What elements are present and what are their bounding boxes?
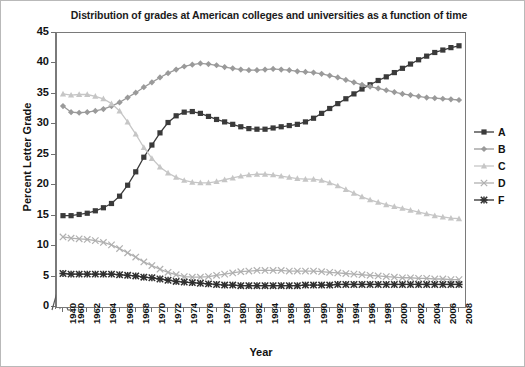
data-point-star [189,279,196,286]
data-point-star [334,281,341,288]
data-point-star [221,282,228,289]
x-tick-mark [458,308,459,312]
data-point-diamond [205,61,211,67]
data-point-diamond [415,93,421,99]
data-point-star [213,281,220,288]
data-point-square [351,91,356,96]
legend-item-C[interactable]: C [473,157,523,174]
legend-item-F[interactable]: F [473,191,523,208]
data-point-diamond [456,97,462,103]
data-point-star [229,282,236,289]
data-point-star [342,281,349,288]
data-point-diamond [383,87,389,93]
data-point-square [271,125,276,130]
series-line-D [63,237,459,280]
x-tick-label: 2006 [447,312,458,324]
data-point-diamond [399,91,405,97]
x-tick-mark [86,308,87,312]
data-point-star [197,280,204,287]
data-point-square [440,47,445,52]
data-point-square [335,101,340,106]
data-point-diamond [310,69,316,75]
x-tick-mark [410,308,411,312]
data-point-square [174,113,179,118]
series-line-B [63,63,459,112]
x-tick-label: 1970 [156,312,167,324]
data-point-star [302,282,309,289]
x-tick-mark [361,308,362,312]
data-point-star [59,270,66,277]
y-tick-label: 35 [23,86,49,98]
x-tick-label: 1990 [318,312,329,324]
y-tick-label: 10 [23,238,49,250]
data-point-diamond [432,95,438,101]
data-point-triangle [173,174,179,180]
x-tick-mark [450,308,451,312]
x-axis-label: Year [201,346,321,358]
data-point-star [261,282,268,289]
data-point-square [214,117,219,122]
series-line-A [63,46,459,216]
data-point-square [222,119,227,124]
data-point-square [246,126,251,131]
x-tick-label: 1966 [124,312,135,324]
data-point-diamond [100,106,106,112]
data-point-star [181,279,188,286]
x-tick-mark [232,308,233,312]
data-point-star [415,281,422,288]
data-point-square [101,205,106,210]
x-tick-mark [434,308,435,312]
x-tick-mark [167,308,168,312]
x-tick-mark [442,308,443,312]
data-point-square [400,66,405,71]
x-tick-label: 1976 [204,312,215,324]
series-line-C [63,94,459,219]
data-point-diamond [84,109,90,115]
data-point-star [148,274,155,281]
data-point-star [92,271,99,278]
x-tick-label: 1968 [140,312,151,324]
data-point-star [132,273,139,280]
legend-label: A [498,126,506,138]
data-point-diamond [391,89,397,95]
data-point-diamond [173,66,179,72]
legend-item-A[interactable]: A [473,123,523,140]
data-point-star [423,281,430,288]
data-point-square [109,201,114,206]
x-tick-mark [70,308,71,312]
data-point-star [391,281,398,288]
data-point-square [60,213,65,218]
x-tick-mark [248,308,249,312]
x-tick-mark [240,308,241,312]
data-point-x-light [157,266,163,272]
x-tick-mark [143,308,144,312]
data-point-star [84,271,91,278]
data-point-x-light [116,245,122,251]
legend-item-B[interactable]: B [473,140,523,157]
x-tick-mark [224,308,225,312]
data-point-x-light [124,250,130,256]
x-tick-mark [385,308,386,312]
data-point-star [480,196,487,203]
x-tick-mark [199,308,200,312]
data-point-x-light [141,259,147,265]
data-point-diamond [343,77,349,83]
data-point-diamond [424,94,430,100]
data-point-star [124,272,131,279]
data-point-square [85,211,90,216]
data-point-square [343,96,348,101]
data-point-diamond [116,99,122,105]
x-tick-label: 1962 [91,312,102,324]
data-point-star [375,281,382,288]
legend-marker-star-icon [473,194,495,206]
data-point-star [108,271,115,278]
data-point-square [230,122,235,127]
data-point-star [318,282,325,289]
data-point-star [294,282,301,289]
data-point-square [133,169,138,174]
legend-item-D[interactable]: D [473,174,523,191]
data-point-square [384,74,389,79]
x-tick-label: 1988 [301,312,312,324]
legend-marker-diamond-icon [473,143,495,155]
data-point-star [286,282,293,289]
